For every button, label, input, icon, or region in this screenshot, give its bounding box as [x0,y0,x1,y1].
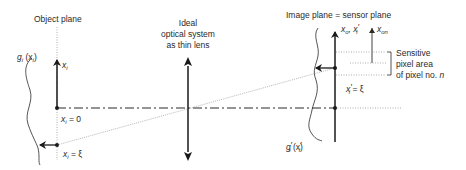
image-plane-label: Image plane = sensor plane [286,10,391,20]
lens-label-line1: Ideal [179,18,198,28]
object-point-label: xi = ξ [62,149,82,160]
pixel-axis-label: xon [376,24,389,35]
object-function-curve [26,58,40,165]
sensitive-label-line3: of pixel no. n [396,70,444,80]
object-origin-label: xi = 0 [60,114,81,125]
lens-label-line3: as thin lens [167,40,210,50]
image-axis-label: xo, x′i [340,22,360,35]
object-axis-label: xi [61,60,68,71]
object-plane-label: Object plane [34,14,82,24]
sensitive-label-line2: pixel area [396,59,433,69]
light-ray [57,68,335,145]
lens-top-arrowhead [184,57,192,66]
image-origin-point [333,106,337,110]
sensitive-label-line1: Sensitive [396,48,431,58]
pixel-area-bracket [387,52,391,75]
object-origin-point [55,106,59,110]
image-point-label: x′i = ξ [345,82,364,95]
image-function-label: g′i (x′i) [286,140,303,153]
image-function-curve [309,28,322,141]
lens-label-line2: optical system [161,29,215,39]
optical-imaging-diagram: Object plane Ideal optical system as thi… [0,0,466,170]
object-function-label: gi (xi) [17,52,37,63]
lens-bottom-arrowhead [184,152,192,161]
